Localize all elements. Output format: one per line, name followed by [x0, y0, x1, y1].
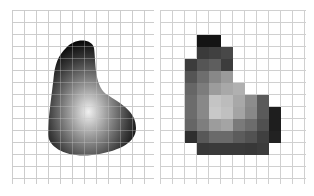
- pixel-cell: [209, 119, 221, 131]
- pixel-cell: [245, 107, 257, 119]
- pixel-cell: [185, 107, 197, 119]
- pixel-cell: [233, 119, 245, 131]
- pixel-cell: [209, 95, 221, 107]
- pixel-cell: [209, 83, 221, 95]
- pixel-cell: [209, 35, 221, 47]
- pixel-cell: [185, 71, 197, 83]
- pixel-cell: [185, 95, 197, 107]
- pixel-cell: [269, 131, 281, 143]
- pixel-cell: [245, 131, 257, 143]
- pixel-cell: [233, 95, 245, 107]
- continuous-image-panel: [12, 10, 154, 184]
- pixel-cell: [221, 83, 233, 95]
- pixel-cell: [257, 107, 269, 119]
- pixel-cell: [197, 59, 209, 71]
- pixel-cell: [197, 119, 209, 131]
- pixel-cell: [245, 143, 257, 155]
- sampled-image-panel: [160, 10, 306, 184]
- pixel-cell: [197, 83, 209, 95]
- pixel-cell: [233, 83, 245, 95]
- pixel-cell: [197, 95, 209, 107]
- pixel-cell: [221, 59, 233, 71]
- pixel-cell: [221, 47, 233, 59]
- pixel-cell: [209, 47, 221, 59]
- pixel-cell: [185, 83, 197, 95]
- pixel-cell: [221, 119, 233, 131]
- pixel-cell: [197, 107, 209, 119]
- pixel-cell: [257, 131, 269, 143]
- pixel-cell: [221, 131, 233, 143]
- pixel-cell: [221, 143, 233, 155]
- pixel-cell: [245, 119, 257, 131]
- continuous-blob-shape: [36, 34, 146, 164]
- pixel-cell: [269, 107, 281, 119]
- pixel-cell: [221, 71, 233, 83]
- pixel-cell: [209, 131, 221, 143]
- pixel-cell: [257, 143, 269, 155]
- pixel-cell: [209, 71, 221, 83]
- pixel-cell: [233, 143, 245, 155]
- pixel-cell: [209, 143, 221, 155]
- pixel-cell: [233, 107, 245, 119]
- pixel-cell: [257, 119, 269, 131]
- pixel-cell: [197, 35, 209, 47]
- pixel-cell: [209, 107, 221, 119]
- pixel-cell: [185, 119, 197, 131]
- pixel-cell: [209, 59, 221, 71]
- pixel-cell: [269, 119, 281, 131]
- pixel-cell: [197, 131, 209, 143]
- pixel-cell: [185, 59, 197, 71]
- pixel-cell: [197, 143, 209, 155]
- pixel-cell: [245, 95, 257, 107]
- pixel-cell: [197, 71, 209, 83]
- pixel-cell: [221, 107, 233, 119]
- pixel-cell: [221, 95, 233, 107]
- pixel-cell: [257, 95, 269, 107]
- pixel-cell: [197, 47, 209, 59]
- pixel-cell: [185, 131, 197, 143]
- pixel-cell: [233, 131, 245, 143]
